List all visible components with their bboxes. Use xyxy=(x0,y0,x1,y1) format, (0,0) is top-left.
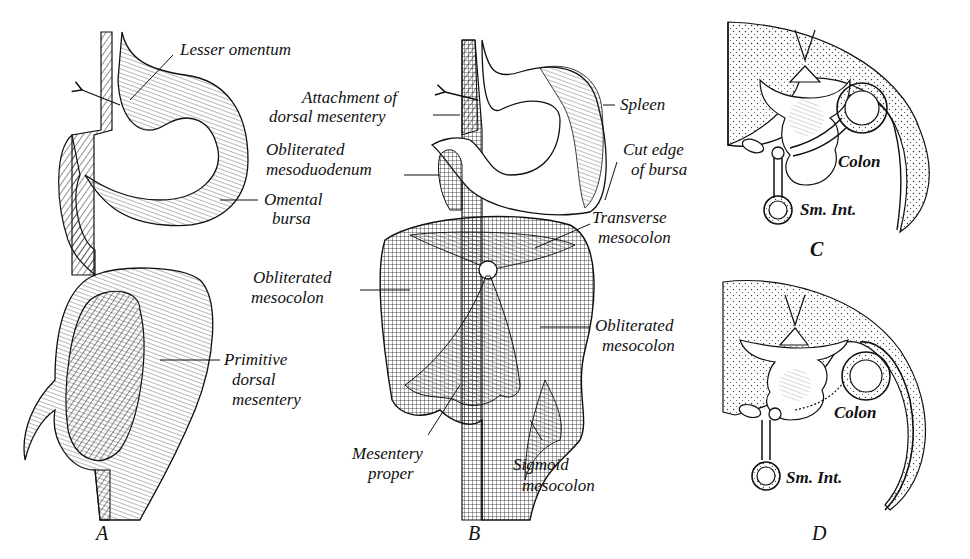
panel-letter-d: D xyxy=(812,522,826,545)
label-primitive-dorsal-mesentery-line1: Primitive xyxy=(224,350,287,369)
label-sm-int-c: Sm. Int. xyxy=(800,200,856,219)
label-sm-int-d: Sm. Int. xyxy=(786,468,842,487)
label-sigmoid-mesocolon-line1: Sigmoid xyxy=(513,455,569,474)
panel-letter-a: A xyxy=(96,522,108,545)
label-lesser-omentum: Lesser omentum xyxy=(180,40,291,59)
label-obliterated-mesoduodenum-line1: Obliterated xyxy=(266,140,344,159)
label-attachment-dorsal-mesentery-line1: Attachment of xyxy=(302,88,397,107)
label-obliterated-mesocolon-left-line2: mesocolon xyxy=(251,288,324,307)
panel-a-drawing xyxy=(24,32,258,520)
label-obliterated-mesocolon-left-line1: Obliterated xyxy=(253,268,331,287)
label-omental-bursa-line2: bursa xyxy=(272,209,311,228)
label-cut-edge-of-bursa-line1: Cut edge xyxy=(623,140,684,159)
label-obliterated-mesoduodenum-line2: mesoduodenum xyxy=(266,160,372,179)
label-primitive-dorsal-mesentery-line3: mesentery xyxy=(232,390,301,409)
label-colon-d: Colon xyxy=(834,403,877,422)
label-cut-edge-of-bursa-line2: of bursa xyxy=(631,160,687,179)
label-transverse-mesocolon-line1: Transverse xyxy=(592,208,667,227)
label-colon-c: Colon xyxy=(838,152,881,171)
label-omental-bursa-line1: Omental xyxy=(264,190,323,209)
panel-letter-b: B xyxy=(468,522,480,545)
label-attachment-dorsal-mesentery-line2: dorsal mesentery xyxy=(269,107,386,126)
label-spleen: Spleen xyxy=(620,95,665,114)
panel-letter-c: C xyxy=(810,238,823,261)
label-obliterated-mesocolon-right-line2: mesocolon xyxy=(602,336,675,355)
label-sigmoid-mesocolon-line2: mesocolon xyxy=(522,476,595,495)
label-primitive-dorsal-mesentery-line2: dorsal xyxy=(232,370,275,389)
label-mesentery-proper-line1: Mesentery xyxy=(352,444,423,463)
label-obliterated-mesocolon-right-line1: Obliterated xyxy=(595,316,673,335)
label-mesentery-proper-line2: proper xyxy=(368,464,414,483)
label-transverse-mesocolon-line2: mesocolon xyxy=(598,228,671,247)
